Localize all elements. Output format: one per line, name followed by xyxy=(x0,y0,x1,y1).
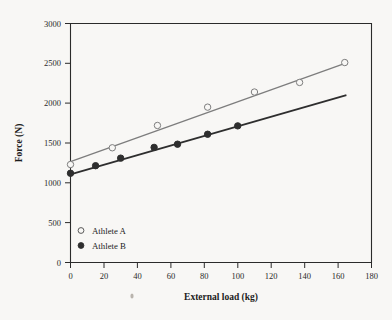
legend-label-athlete-a: Athlete A xyxy=(92,226,127,236)
data-point xyxy=(235,123,241,129)
y-tick-label-1000: 1000 xyxy=(44,178,61,188)
x-tick-label-160: 160 xyxy=(332,271,345,281)
data-point xyxy=(117,155,123,161)
data-point xyxy=(204,131,210,137)
scan-speck-artifact xyxy=(130,293,133,298)
x-tick-label-0: 0 xyxy=(68,271,72,281)
legend-marker-filled-circle xyxy=(78,243,84,249)
data-point xyxy=(342,59,348,65)
data-point xyxy=(92,163,98,169)
y-tick-label-2000: 2000 xyxy=(44,98,61,108)
y-tick-label-1500: 1500 xyxy=(44,138,61,148)
data-point xyxy=(296,79,302,85)
x-tick-label-40: 40 xyxy=(133,271,142,281)
scatter-plot: 0 500 1000 1500 2000 2500 3000 0 20 40 6… xyxy=(0,0,392,320)
data-point xyxy=(67,161,73,167)
data-point xyxy=(251,89,257,95)
legend-label-athlete-b: Athlete B xyxy=(92,241,126,251)
x-tick-label-80: 80 xyxy=(200,271,209,281)
y-tick-label-2500: 2500 xyxy=(44,58,61,68)
x-tick-label-20: 20 xyxy=(100,271,109,281)
data-point xyxy=(151,144,157,150)
x-tick-label-180: 180 xyxy=(365,271,378,281)
x-axis-title: External load (kg) xyxy=(184,292,258,303)
data-point xyxy=(204,104,210,110)
data-point xyxy=(109,145,115,151)
y-axis-title: Force (N) xyxy=(14,124,25,163)
data-point xyxy=(174,141,180,147)
y-tick-label-0: 0 xyxy=(57,258,61,268)
x-tick-label-100: 100 xyxy=(231,271,244,281)
x-tick-label-140: 140 xyxy=(298,271,311,281)
x-tick-label-120: 120 xyxy=(265,271,278,281)
data-point xyxy=(67,170,73,176)
data-point xyxy=(154,122,160,128)
chart-figure: 0 500 1000 1500 2000 2500 3000 0 20 40 6… xyxy=(0,0,392,320)
x-tick-label-60: 60 xyxy=(167,271,176,281)
y-tick-label-3000: 3000 xyxy=(44,19,61,29)
y-tick-label-500: 500 xyxy=(48,218,61,228)
